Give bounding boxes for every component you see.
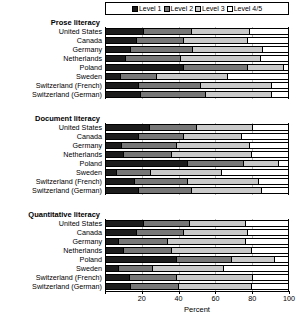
chart-row: Sweden xyxy=(106,264,288,273)
bar-segment-l3 xyxy=(153,266,224,271)
plot-inner: United StatesCanadaGermanyNetherlandsPol… xyxy=(106,27,288,99)
chart-row: Switzerland (French) xyxy=(106,81,288,90)
category-label: Poland xyxy=(5,159,106,168)
chart-row: Germany xyxy=(106,141,288,150)
bar-segment-l2 xyxy=(137,38,184,43)
bar-segment-l4 xyxy=(284,65,288,70)
bar-segment-l2 xyxy=(119,266,154,271)
legend-item-l2: Level 2 xyxy=(164,5,194,12)
chart-row: Switzerland (German) xyxy=(106,282,288,291)
panel-title: Prose literacy xyxy=(0,18,100,27)
bar-segment-l3 xyxy=(172,248,252,253)
bar-segment-l2 xyxy=(122,143,177,148)
bar-segment-l2 xyxy=(177,257,232,262)
bar-segment-l4 xyxy=(246,239,288,244)
category-label: Poland xyxy=(5,63,106,72)
plot-area: United StatesCanadaGermanyNetherlandsPol… xyxy=(105,27,289,99)
stacked-bar xyxy=(106,82,288,89)
legend-swatch-l4 xyxy=(227,6,233,12)
bar-segment-l4 xyxy=(263,47,288,52)
bar-segment-l3 xyxy=(181,56,261,61)
bar-segment-l4 xyxy=(259,179,288,184)
stacked-bar xyxy=(106,187,288,194)
bar-segment-l4 xyxy=(253,125,288,130)
bar-segment-l3 xyxy=(157,74,228,79)
stacked-bar xyxy=(106,229,288,236)
stacked-bar xyxy=(106,160,288,167)
stacked-bar xyxy=(106,247,288,254)
bar-segment-l3 xyxy=(190,221,246,226)
bar-segment-l2 xyxy=(144,221,190,226)
bar-segment-l3 xyxy=(193,47,262,52)
bar-segment-l4 xyxy=(248,38,288,43)
bar-segment-l4 xyxy=(252,152,288,157)
bar-segment-l1 xyxy=(106,188,139,193)
chart-row: Poland xyxy=(106,63,288,72)
bar-segment-l2 xyxy=(131,47,193,52)
bar-segment-l2 xyxy=(137,230,184,235)
bar-segment-l1 xyxy=(106,65,184,70)
stacked-bar xyxy=(106,73,288,80)
stacked-bar xyxy=(106,178,288,185)
legend-swatch-l1 xyxy=(132,6,138,12)
stacked-bar xyxy=(106,142,288,149)
bar-segment-l2 xyxy=(124,248,171,253)
chart-row: Netherlands xyxy=(106,150,288,159)
bar-segment-l1 xyxy=(106,248,124,253)
bar-segment-l1 xyxy=(106,161,188,166)
bar-segment-l3 xyxy=(197,125,253,130)
bar-segment-l3 xyxy=(184,230,248,235)
category-label: Switzerland (German) xyxy=(5,90,106,99)
bar-segment-l3 xyxy=(151,170,222,175)
x-axis: 20406080100 xyxy=(105,291,289,292)
bar-segment-l4 xyxy=(250,29,288,34)
bar-segment-l3 xyxy=(168,239,246,244)
bar-segment-l3 xyxy=(184,38,248,43)
stacked-bar xyxy=(106,265,288,272)
bar-segment-l4 xyxy=(272,83,288,88)
category-label: Netherlands xyxy=(5,150,106,159)
legend-label: Level 4/5 xyxy=(234,5,262,12)
category-label: United States xyxy=(5,123,106,132)
x-tick-label: 80 xyxy=(248,295,256,303)
bar-segment-l1 xyxy=(106,83,139,88)
stacked-bar xyxy=(106,133,288,140)
bar-segment-l4 xyxy=(253,275,288,280)
bar-segment-l1 xyxy=(106,221,144,226)
bar-segment-l2 xyxy=(124,152,171,157)
category-label: Sweden xyxy=(5,168,106,177)
bar-segment-l4 xyxy=(224,266,288,271)
bar-segment-l2 xyxy=(139,188,192,193)
bar-segment-l1 xyxy=(106,170,117,175)
bar-segment-l1 xyxy=(106,284,131,289)
plot-inner: United StatesCanadaGermanyNetherlandsPol… xyxy=(106,123,288,195)
x-tick-label: 60 xyxy=(211,295,219,303)
legend-item-l4: Level 4/5 xyxy=(227,5,262,12)
bar-segment-l2 xyxy=(139,83,201,88)
chart-row: Germany xyxy=(106,237,288,246)
category-label: Canada xyxy=(5,132,106,141)
bar-segment-l1 xyxy=(106,29,144,34)
bar-segment-l2 xyxy=(121,74,157,79)
bar-segment-l1 xyxy=(106,38,137,43)
bar-segment-l1 xyxy=(106,257,177,262)
bar-segment-l2 xyxy=(139,134,185,139)
category-label: Switzerland (German) xyxy=(5,186,106,195)
bar-segment-l2 xyxy=(135,179,188,184)
bar-segment-l1 xyxy=(106,239,119,244)
category-label: Canada xyxy=(5,228,106,237)
category-label: United States xyxy=(5,27,106,36)
stacked-bar xyxy=(106,28,288,35)
bar-segment-l1 xyxy=(106,56,126,61)
bar-segment-l2 xyxy=(188,161,244,166)
panel-0: Prose literacyUnited StatesCanadaGermany… xyxy=(0,18,306,100)
stacked-bar xyxy=(106,91,288,98)
bar-segment-l1 xyxy=(106,143,122,148)
bar-segment-l3 xyxy=(248,65,284,70)
category-label: United States xyxy=(5,219,106,228)
bar-segment-l3 xyxy=(177,275,253,280)
category-label: Germany xyxy=(5,45,106,54)
bar-segment-l4 xyxy=(222,170,288,175)
category-label: Germany xyxy=(5,141,106,150)
bar-segment-l2 xyxy=(119,239,168,244)
